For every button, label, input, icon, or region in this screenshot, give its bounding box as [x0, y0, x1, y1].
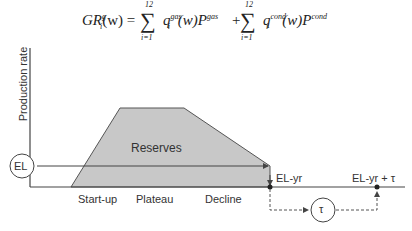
- tau-circle-label: τ: [319, 203, 323, 215]
- phase-startup: Start-up: [78, 193, 117, 205]
- tau-path-left: [270, 189, 308, 210]
- el-yr-tau-point: [375, 185, 380, 190]
- y-axis-label: Production rate: [17, 47, 29, 122]
- el-yr-tau-label: EL-yr + τ: [352, 172, 395, 184]
- el-yr-point: [268, 185, 273, 190]
- reserves-label: Reserves: [131, 141, 182, 155]
- el-yr-label: EL-yr: [276, 172, 302, 184]
- tau-path-right: [336, 192, 377, 210]
- phase-decline: Decline: [205, 193, 242, 205]
- phase-plateau: Plateau: [136, 193, 173, 205]
- el-circle-label: EL: [14, 160, 27, 172]
